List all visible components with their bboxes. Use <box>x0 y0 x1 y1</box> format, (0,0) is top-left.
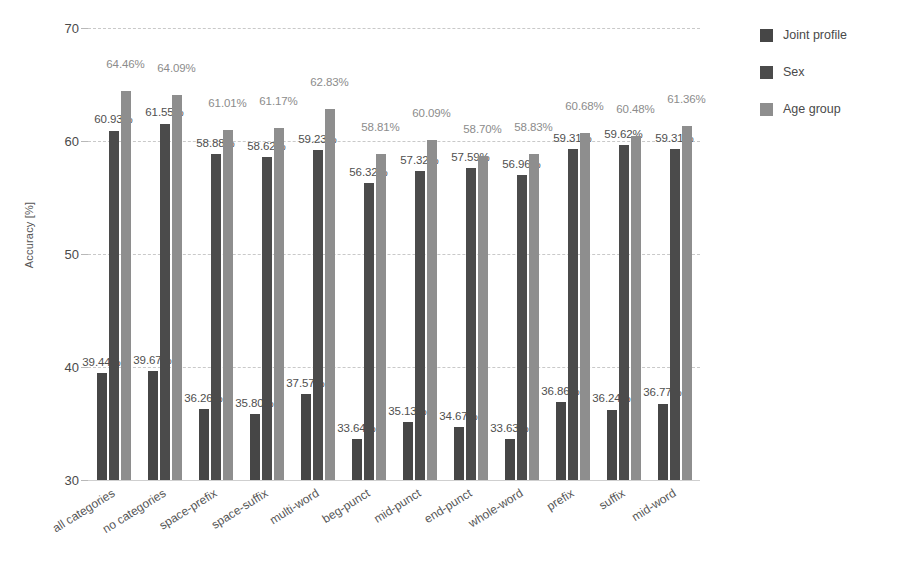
y-axis-title: Accuracy [%] <box>14 0 44 470</box>
y-tick-mark <box>81 480 88 481</box>
bar-value-label: 61.36% <box>667 93 705 105</box>
x-tick-label: suffix <box>596 486 627 513</box>
bar <box>160 124 170 481</box>
legend-swatch-icon <box>760 103 773 116</box>
bar <box>682 126 692 480</box>
bar <box>556 402 566 480</box>
bar <box>427 140 437 480</box>
bar <box>454 427 464 480</box>
y-tick-label: 30 <box>65 473 79 488</box>
bar <box>274 128 284 480</box>
bar-group: 36.77%59.31%61.36% <box>649 28 700 480</box>
bar-group: 36.24%59.62%60.48% <box>598 28 649 480</box>
legend-item-label: Joint profile <box>783 28 847 42</box>
legend-item-label: Sex <box>783 65 805 79</box>
x-tick-label: space-suffix <box>208 486 270 532</box>
accuracy-bar-chart: Accuracy [%] 3040506070 39.44%60.93%64.4… <box>0 0 913 573</box>
legend-item[interactable]: Joint profile <box>760 28 910 42</box>
bar-group: 35.80%58.62%61.17% <box>241 28 292 480</box>
bar <box>517 175 527 480</box>
bar <box>262 157 272 480</box>
legend-item-label: Age group <box>783 102 841 116</box>
x-tick-label: whole-word <box>465 486 524 530</box>
bar <box>670 149 680 480</box>
bar-group: 34.67%57.59%58.70% <box>445 28 496 480</box>
x-tick-label: beg-punct <box>319 486 372 526</box>
bar <box>466 168 476 480</box>
plot-area: 3040506070 39.44%60.93%64.46%39.67%61.55… <box>88 28 700 480</box>
legend-item[interactable]: Sex <box>760 65 910 79</box>
bar <box>403 422 413 480</box>
bar-group: 33.64%56.32%58.81% <box>343 28 394 480</box>
bar <box>109 131 119 481</box>
bar <box>658 404 668 481</box>
bar <box>325 109 335 480</box>
gridline <box>88 480 700 481</box>
x-tick-label: prefix <box>544 486 576 513</box>
bar <box>121 91 131 480</box>
bar <box>568 149 578 480</box>
bar <box>199 409 209 480</box>
bar <box>478 156 488 480</box>
bar <box>415 171 425 480</box>
bar <box>352 439 362 480</box>
y-tick-label: 50 <box>65 247 79 262</box>
x-tick-label: multi-word <box>267 486 321 527</box>
bar <box>97 373 107 480</box>
bar <box>505 439 515 480</box>
bar-group: 39.44%60.93%64.46% <box>88 28 139 480</box>
bar <box>301 394 311 480</box>
bar <box>619 145 629 480</box>
y-tick-mark <box>81 28 88 29</box>
y-tick-mark <box>81 141 88 142</box>
bar <box>529 154 539 480</box>
bar <box>148 371 158 480</box>
bar <box>376 154 386 480</box>
bar-group: 37.57%59.23%62.83% <box>292 28 343 480</box>
bar <box>250 414 260 480</box>
y-tick-label: 60 <box>65 134 79 149</box>
bar <box>313 150 323 480</box>
bar <box>172 95 182 480</box>
bar <box>580 133 590 480</box>
legend-item[interactable]: Age group <box>760 102 910 116</box>
bar-group: 36.26%58.88%61.01% <box>190 28 241 480</box>
legend-swatch-icon <box>760 66 773 79</box>
bar-group: 35.13%57.32%60.09% <box>394 28 445 480</box>
x-tick-label: mid-word <box>629 486 678 524</box>
chart-legend: Joint profileSexAge group <box>760 28 910 139</box>
y-axis-title-text: Accuracy [%] <box>23 202 35 269</box>
y-tick-label: 40 <box>65 360 79 375</box>
x-tick-label: mid-punct <box>371 486 423 526</box>
bar <box>223 130 233 480</box>
bar <box>631 136 641 480</box>
bar <box>364 183 374 480</box>
legend-swatch-icon <box>760 29 773 42</box>
bar-group: 39.67%61.55%64.09% <box>139 28 190 480</box>
y-tick-label: 70 <box>65 21 79 36</box>
bar-group: 36.86%59.31%60.68% <box>547 28 598 480</box>
bar-group: 33.63%56.96%58.83% <box>496 28 547 480</box>
y-tick-mark <box>81 254 88 255</box>
bar <box>607 410 617 481</box>
bar <box>211 154 221 480</box>
